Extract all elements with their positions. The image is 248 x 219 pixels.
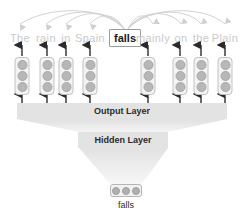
cell-unit <box>85 71 95 81</box>
cell-unit <box>85 82 95 92</box>
cell-unit <box>196 60 206 70</box>
input-unit <box>122 187 130 195</box>
cell-stack-spain[interactable] <box>83 57 98 95</box>
sentence-word-spain[interactable]: Spain <box>75 32 105 44</box>
sentence-word-on[interactable]: on <box>174 32 187 44</box>
input-cell-falls[interactable] <box>110 184 142 197</box>
cell-unit <box>42 71 52 81</box>
input-unit <box>112 187 120 195</box>
cell-unit <box>175 82 185 92</box>
cell-stack-rain[interactable] <box>40 57 55 95</box>
sentence-word-the-2[interactable]: the <box>193 32 210 44</box>
cell-unit <box>220 71 230 81</box>
cell-stack-mainly[interactable] <box>141 57 156 95</box>
funnel-hidden-to-input <box>79 148 168 184</box>
cell-unit <box>61 82 71 92</box>
cell-unit <box>42 60 52 70</box>
cell-unit <box>175 71 185 81</box>
cell-unit <box>175 60 185 70</box>
hidden-layer-bar[interactable]: Hidden Layer <box>78 132 168 148</box>
sentence-word-mainly[interactable]: mainly <box>136 32 170 44</box>
cell-unit <box>85 60 95 70</box>
attention-arcs <box>20 11 225 29</box>
attention-diagram: The rain in Spain falls mainly on the Pl… <box>0 0 248 219</box>
cell-unit <box>143 71 153 81</box>
sentence-word-rain[interactable]: rain <box>36 32 56 44</box>
cell-unit <box>220 82 230 92</box>
input-word-label: falls <box>118 200 134 210</box>
cell-unit <box>143 82 153 92</box>
cell-unit <box>220 60 230 70</box>
cell-unit <box>17 60 27 70</box>
cell-stack-plain[interactable] <box>218 57 233 95</box>
cell-unit <box>17 82 27 92</box>
sentence-word-plain[interactable]: Plain <box>212 32 238 44</box>
funnel-output-to-hidden <box>17 119 227 132</box>
cell-stack-the[interactable] <box>15 57 30 95</box>
output-layer-to-cell-arrows <box>22 94 225 103</box>
cell-unit <box>196 71 206 81</box>
cell-stack-the-2[interactable] <box>194 57 209 95</box>
cell-unit <box>17 71 27 81</box>
cell-stack-in[interactable] <box>59 57 74 95</box>
cell-unit <box>61 71 71 81</box>
cell-unit <box>42 82 52 92</box>
output-layer-bar[interactable]: Output Layer <box>17 103 227 119</box>
cell-unit <box>196 82 206 92</box>
input-unit <box>132 187 140 195</box>
sentence-word-in[interactable]: in <box>61 32 70 44</box>
cell-stack-on[interactable] <box>173 57 188 95</box>
sentence-word-the[interactable]: The <box>10 32 30 44</box>
cell-unit <box>61 60 71 70</box>
cell-unit <box>143 60 153 70</box>
